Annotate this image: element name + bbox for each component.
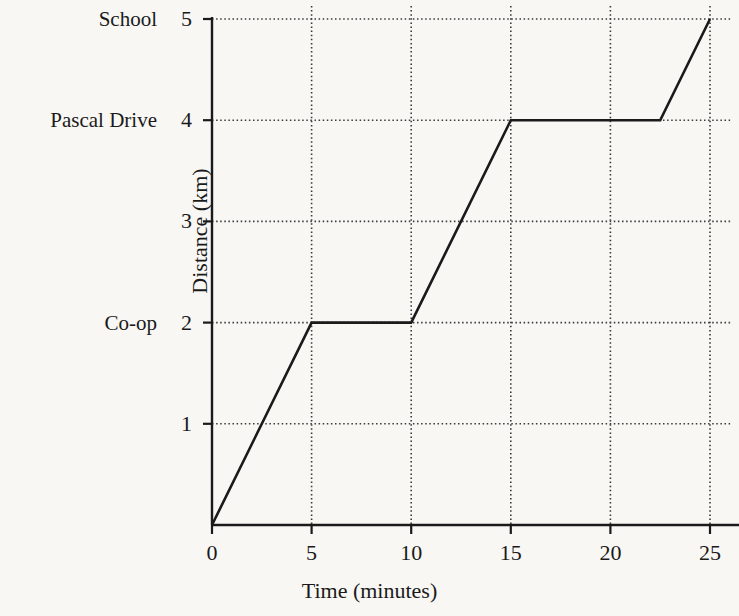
place-annotation-label: Co-op (105, 313, 158, 334)
x-axis-title: Time (minutes) (0, 578, 739, 604)
gridlines-horizontal (212, 19, 731, 424)
distance-time-chart: SchoolPascal DriveCo-op 12345 0510152025… (0, 0, 739, 616)
gridlines-vertical (312, 6, 710, 525)
x-tick-label: 25 (690, 542, 730, 564)
chart-plot-area (0, 0, 739, 616)
place-annotation-label: School (99, 9, 157, 30)
chart-axes (212, 17, 739, 525)
y-axis-title: Distance (km) (187, 131, 213, 331)
x-tick-label: 15 (491, 542, 531, 564)
x-tick-label: 5 (292, 542, 332, 564)
y-tick-label: 4 (166, 109, 192, 131)
y-tick-label: 1 (166, 413, 192, 435)
x-tick-label: 10 (391, 542, 431, 564)
place-annotation-label: Pascal Drive (50, 110, 157, 131)
x-tick-label: 0 (192, 542, 232, 564)
x-tick-label: 20 (590, 542, 630, 564)
y-tick-label: 5 (166, 8, 192, 30)
journey-line (212, 19, 710, 525)
chart-tick-marks (203, 19, 710, 534)
data-series-line (212, 19, 710, 525)
